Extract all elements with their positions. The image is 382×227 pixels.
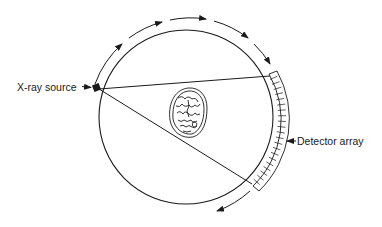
gantry-circle [99,30,273,204]
detector-array-label: Detector array [297,136,364,147]
patient-head-icon [170,88,207,137]
xray-source-icon [92,83,101,92]
detector-array [253,71,289,191]
ct-scanner-diagram [0,0,382,227]
xray-source-label: X-ray source [17,82,77,93]
source-label-pointer [82,87,91,88]
